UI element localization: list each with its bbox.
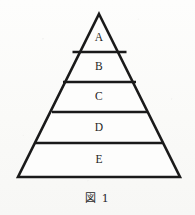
pyramid-diagram: A B C D E (0, 0, 195, 185)
band-label-a: A (95, 31, 104, 43)
figure-page: A B C D E 図 1 (0, 0, 195, 215)
figure-caption: 図 1 (0, 189, 195, 205)
band-label-e: E (95, 153, 102, 165)
band-label-c: C (95, 90, 103, 102)
band-label-d: D (95, 121, 104, 133)
band-label-b: B (95, 60, 103, 72)
